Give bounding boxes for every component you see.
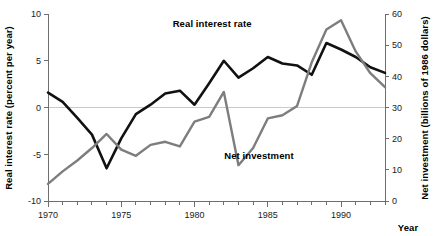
right-axis-tick-label: 40 — [392, 72, 402, 82]
left-axis-title: Real interest rate (percent per year) — [3, 26, 14, 190]
right-axis-tick-label: 10 — [392, 165, 402, 175]
right-axis-tick-label: 30 — [392, 103, 402, 113]
left-axis-tick-label: -10 — [28, 196, 41, 206]
x-axis-tick-label: 1985 — [258, 210, 278, 220]
x-axis-tick-label: 1975 — [111, 210, 131, 220]
left-axis-tick-label: 10 — [31, 9, 41, 19]
right-axis-tick-label: 0 — [392, 196, 397, 206]
left-axis-tick-label: 0 — [36, 103, 41, 113]
chart-svg: -10-50510 0102030405060 1970197519801985… — [0, 0, 437, 236]
x-axis-tick-label: 1990 — [331, 210, 351, 220]
right-axis-title-group: Net investment (billions of 1986 dollars… — [419, 16, 430, 200]
left-axis-tick-label: -5 — [33, 150, 41, 160]
left-axis-title-group: Real interest rate (percent per year) — [3, 26, 14, 190]
x-axis-title: Year — [398, 222, 419, 233]
right-axis-tick-label: 20 — [392, 134, 402, 144]
series-label-real-interest-rate: Real interest rate — [173, 18, 252, 29]
right-axis-title: Net investment (billions of 1986 dollars… — [419, 16, 430, 200]
series-label-net-investment: Net investment — [224, 150, 294, 161]
x-axis-title-group: Year — [398, 222, 419, 233]
chart-figure: -10-50510 0102030405060 1970197519801985… — [0, 0, 437, 236]
left-axis-tick-label: 5 — [36, 56, 41, 66]
x-axis-tick-label: 1970 — [38, 210, 58, 220]
right-axis-tick-label: 60 — [392, 9, 402, 19]
right-axis-tick-label: 50 — [392, 40, 402, 50]
x-axis-tick-label: 1980 — [185, 210, 205, 220]
